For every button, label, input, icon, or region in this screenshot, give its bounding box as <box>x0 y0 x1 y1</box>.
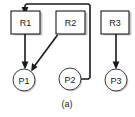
process-node-p3[interactable]: P3 <box>105 69 127 91</box>
figure-container: R1 R2 R3 P1 P2 P3 (a) <box>0 0 135 117</box>
edge-r1-to-p1 <box>22 34 29 70</box>
edge-r3-to-p3-arrowhead <box>113 62 120 70</box>
resource-label-r2: R2 <box>65 18 77 28</box>
edge-r1-to-p1-arrowhead <box>22 62 29 70</box>
process-label-p1: P1 <box>18 76 29 86</box>
process-node-p1[interactable]: P1 <box>13 69 35 91</box>
figure-caption: (a) <box>62 99 73 109</box>
resource-label-r1: R1 <box>20 18 32 28</box>
resource-allocation-graph: R1 R2 R3 P1 P2 P3 (a) <box>0 0 135 117</box>
edge-r3-to-p3 <box>113 34 120 70</box>
process-label-p3: P3 <box>110 76 121 86</box>
resource-node-r2[interactable]: R2 <box>56 11 85 34</box>
resource-node-r1[interactable]: R1 <box>11 11 40 34</box>
resource-node-r3[interactable]: R3 <box>101 11 129 34</box>
process-node-p2[interactable]: P2 <box>59 68 81 90</box>
process-label-p2: P2 <box>64 75 75 85</box>
edge-r2-to-p1 <box>31 35 57 72</box>
edge-r2-to-p1-line <box>35 35 58 66</box>
resource-label-r3: R3 <box>109 18 121 28</box>
